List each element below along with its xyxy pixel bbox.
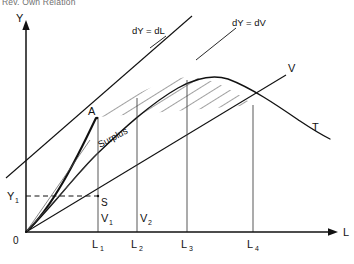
x-tick-label-L2: L 2	[131, 238, 143, 252]
economics-surplus-diagram: Y L 0 V T dY = dL dY = dV Surplus A S Y …	[0, 0, 354, 264]
point-marker-S	[97, 195, 99, 197]
svg-text:1: 1	[100, 245, 104, 252]
emphasis-chord-A	[26, 118, 96, 232]
y-axis-label: Y	[16, 12, 24, 24]
figure-canvas: Rev. Own Relation	[0, 0, 354, 264]
svg-text:1: 1	[109, 219, 113, 226]
svg-text:2: 2	[139, 245, 143, 252]
svg-text:L: L	[181, 238, 187, 250]
y-axis-arrowhead	[22, 20, 29, 30]
clipped-heading: Rev. Own Relation	[2, 0, 142, 6]
value-marker-V1: V 1	[101, 212, 113, 226]
value-marker-V2: V 2	[140, 212, 152, 226]
y-tick-label-Y1: Y 1	[7, 190, 19, 204]
svg-text:4: 4	[255, 245, 259, 252]
annotation-dY-dV: dY = dV	[232, 17, 267, 28]
svg-text:L: L	[92, 238, 98, 250]
svg-text:V: V	[101, 212, 109, 224]
x-axis-label: L	[343, 226, 349, 238]
leader-line-dY-dV	[196, 28, 236, 60]
curve-label-V: V	[288, 62, 296, 74]
svg-text:2: 2	[148, 219, 152, 226]
annotation-surplus: Surplus	[96, 125, 130, 150]
x-axis-arrowhead	[328, 228, 338, 235]
x-tick-label-L4: L 4	[247, 238, 259, 252]
annotation-dY-dL: dY = dL	[132, 25, 165, 36]
point-label-S: S	[101, 197, 108, 208]
svg-text:3: 3	[189, 245, 193, 252]
svg-text:Y: Y	[7, 190, 15, 202]
point-label-A: A	[88, 105, 96, 117]
x-tick-label-L3: L 3	[181, 238, 193, 252]
construction-ray-2	[26, 140, 90, 232]
surplus-region	[98, 77, 253, 117]
svg-text:V: V	[140, 212, 148, 224]
svg-text:1: 1	[15, 197, 19, 204]
point-marker-A	[96, 117, 98, 119]
x-tick-label-L1: L 1	[92, 238, 104, 252]
svg-text:L: L	[247, 238, 253, 250]
svg-text:L: L	[131, 238, 137, 250]
curve-label-T: T	[312, 121, 319, 133]
origin-label: 0	[13, 235, 19, 246]
construction-ray-1	[26, 153, 98, 232]
